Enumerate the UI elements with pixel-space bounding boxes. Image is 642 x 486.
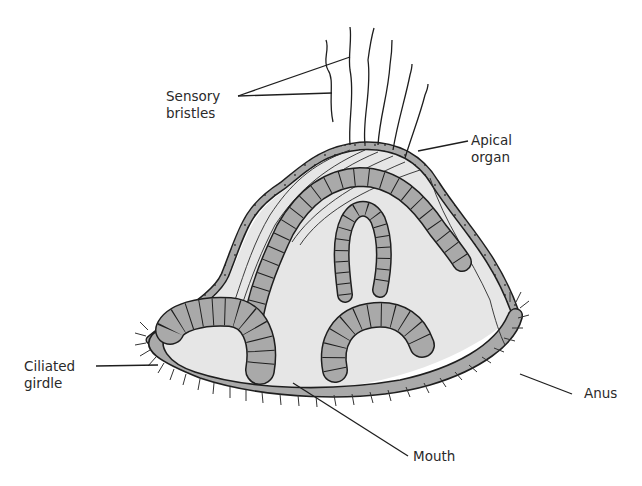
label-anus: Anus [584,385,617,402]
diagram-canvas [0,0,642,486]
sensory-bristles [326,27,428,158]
label-sensory-bristles: Sensory bristles [166,88,220,122]
label-ciliated-girdle: Ciliated girdle [24,358,75,392]
leader-apical-organ [418,141,468,151]
label-mouth: Mouth [413,448,455,465]
label-apical-organ: Apical organ [471,132,512,166]
larva-diagram: Sensory bristles Apical organ Ciliated g… [0,0,642,486]
leader-sensory-bristles-lower [238,93,332,96]
leader-anus [520,374,572,394]
leader-sensory-bristles-upper [238,57,350,96]
